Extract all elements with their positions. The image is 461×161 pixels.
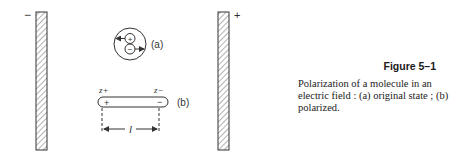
figure-number: Figure 5–1 (298, 60, 458, 72)
molecule-b-polarized: + − z+ z− (b) l (98, 85, 189, 135)
label-a: (a) (151, 39, 163, 50)
figure-caption: Figure 5–1 Polarization of a molecule in… (298, 60, 458, 114)
length-label: l (129, 123, 132, 135)
caption-text: Polarization of a molecule in an electri… (298, 78, 458, 114)
label-b: (b) (177, 97, 189, 108)
positive-charge: + (104, 98, 109, 108)
negative-charge: − (128, 45, 133, 54)
positive-charge: + (128, 35, 133, 44)
polarization-diagram: − + + − (a) + − z+ z− (b) l (0, 0, 300, 161)
positive-plate: + (218, 9, 240, 150)
negative-plate: − (24, 8, 47, 150)
negative-charge: − (157, 97, 162, 107)
z-minus-label: z− (153, 85, 164, 95)
z-plus-label: z+ (98, 85, 109, 95)
negative-sign: − (24, 8, 31, 22)
positive-sign: + (234, 9, 240, 21)
molecule-a-original: + − (a) (114, 28, 163, 60)
